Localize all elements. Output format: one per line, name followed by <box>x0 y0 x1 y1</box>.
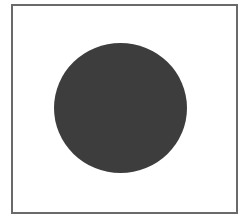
filled-circle <box>54 43 187 173</box>
